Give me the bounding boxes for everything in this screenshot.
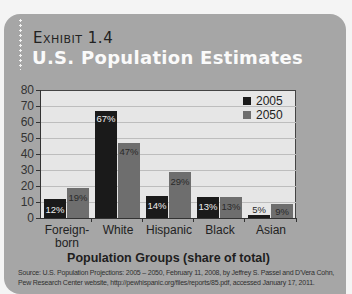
x-axis-title: Population Groups (share of total) xyxy=(41,251,296,265)
y-label: 40 xyxy=(8,148,34,160)
bar-white-2005 xyxy=(95,111,117,218)
y-label: 30 xyxy=(8,164,34,176)
y-label: 10 xyxy=(8,196,34,208)
y-tick xyxy=(36,122,41,123)
value-label: 67% xyxy=(93,114,119,124)
value-label: 14% xyxy=(144,201,170,211)
y-tick xyxy=(36,138,41,139)
bar-asian-2005 xyxy=(248,215,270,218)
x-tick xyxy=(142,218,143,222)
y-tick xyxy=(36,106,41,107)
x-tick xyxy=(296,218,297,222)
y-label: 70 xyxy=(8,100,34,112)
y-tick xyxy=(36,186,41,187)
y-label: 0 xyxy=(8,212,34,224)
y-label: 20 xyxy=(8,180,34,192)
legend-swatch-icon xyxy=(243,111,251,119)
gridline-50 xyxy=(41,138,296,139)
category-label-black: Black xyxy=(194,224,246,237)
source-line: Source: U.S. Population Projections: 200… xyxy=(18,268,344,278)
y-tick xyxy=(36,170,41,171)
category-label-line: born xyxy=(41,237,93,250)
legend-label: 2050 xyxy=(256,108,283,122)
x-tick xyxy=(193,218,194,222)
y-tick xyxy=(36,202,41,203)
category-label-asian: Asian xyxy=(245,224,297,237)
legend-label: 2005 xyxy=(256,94,283,108)
y-label: 60 xyxy=(8,116,34,128)
y-tick xyxy=(36,154,41,155)
x-axis-line xyxy=(40,218,297,219)
exhibit-word: XHIBIT xyxy=(43,33,83,46)
dotted-rule-decoration xyxy=(19,18,22,70)
value-label: 19% xyxy=(65,193,91,203)
category-label-white: White xyxy=(92,224,144,237)
value-label: 9% xyxy=(269,207,295,217)
gridline-60 xyxy=(41,122,296,123)
y-label: 80 xyxy=(8,84,34,96)
value-label: 13% xyxy=(218,202,244,212)
source-note: Source: U.S. Population Projections: 200… xyxy=(18,268,344,288)
y-label: 50 xyxy=(8,132,34,144)
category-label-foreign-born: Foreign-born xyxy=(41,224,93,250)
exhibit-label: EXHIBIT 1.4 xyxy=(33,29,113,47)
y-tick xyxy=(36,218,41,219)
legend-item-2050: 2050 xyxy=(243,108,283,122)
chart-title: U.S. Population Estimates xyxy=(32,47,303,68)
legend-item-2005: 2005 xyxy=(243,94,283,108)
chart-legend: 2005 2050 xyxy=(243,94,283,122)
exhibit-prefix: E xyxy=(33,29,43,47)
value-label: 12% xyxy=(42,205,68,215)
category-label-hispanic: Hispanic xyxy=(143,224,195,237)
gridline-40 xyxy=(41,154,296,155)
exhibit-number: 1.4 xyxy=(88,29,113,47)
value-label: 47% xyxy=(116,147,142,157)
x-tick xyxy=(244,218,245,222)
x-tick xyxy=(91,218,92,222)
source-line: Pew Research Center website, http://pewh… xyxy=(18,278,344,288)
y-tick xyxy=(36,90,41,91)
legend-swatch-icon xyxy=(243,97,251,105)
value-label: 29% xyxy=(167,177,193,187)
